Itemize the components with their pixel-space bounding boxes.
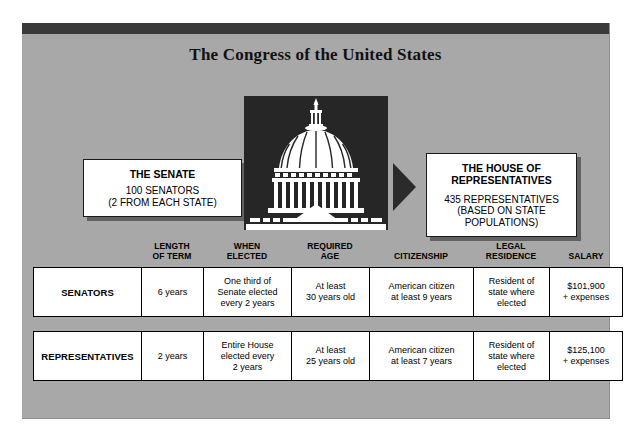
column-header-citizenship: CITIZENSHIP <box>369 241 473 267</box>
senate-details: 100 SENATORS (2 FROM EACH STATE) <box>108 185 217 208</box>
congress-comparison-table: LENGTH OF TERM WHEN ELECTED REQUIRED AGE… <box>33 241 623 381</box>
row-label-senators: SENATORS <box>33 267 141 317</box>
table-row: SENATORS 6 years One third of Senate ele… <box>33 267 623 317</box>
table-row-spacer <box>33 317 623 331</box>
page-title: The Congress of the United States <box>22 45 609 65</box>
column-header-legal-residence-line2: RESIDENCE <box>474 251 548 261</box>
house-detail-line-1: 435 REPRESENTATIVES <box>444 194 559 206</box>
arrow-right-icon <box>393 163 416 211</box>
house-heading-line-1: THE HOUSE OF <box>451 162 552 174</box>
column-header-salary-line1: SALARY <box>550 251 622 261</box>
cell-representatives-required-age: At least 25 years old <box>291 331 369 381</box>
cell-senators-required-age: At least 30 years old <box>291 267 369 317</box>
table-row: REPRESENTATIVES 2 years Entire House ele… <box>33 331 623 381</box>
house-details: 435 REPRESENTATIVES (BASED ON STATE POPU… <box>444 194 559 229</box>
column-header-length-of-term-line1: LENGTH <box>142 241 202 251</box>
cell-senators-legal-residence: Resident of state where elected <box>473 267 549 317</box>
cell-representatives-when-elected: Entire House elected every 2 years <box>203 331 291 381</box>
senate-heading: THE SENATE <box>130 168 196 180</box>
senate-detail-line-2: (2 FROM EACH STATE) <box>108 197 217 209</box>
column-header-salary: SALARY <box>549 241 623 267</box>
cell-representatives-salary: $125,100 + expenses <box>549 331 623 381</box>
house-detail-line-2: (BASED ON STATE <box>444 205 559 217</box>
column-header-when-elected-line2: ELECTED <box>204 251 290 261</box>
column-header-length-of-term: LENGTH OF TERM <box>141 241 203 267</box>
cell-representatives-length-of-term: 2 years <box>141 331 203 381</box>
house-detail-line-3: POPULATIONS) <box>444 217 559 229</box>
comparison-table-area: LENGTH OF TERM WHEN ELECTED REQUIRED AGE… <box>33 241 599 408</box>
cell-representatives-citizenship: American citizen at least 7 years <box>369 331 473 381</box>
column-header-required-age-line2: AGE <box>292 251 368 261</box>
congress-poster: The Congress of the United States <box>22 23 610 419</box>
senate-detail-line-1: 100 SENATORS <box>108 185 217 197</box>
poster-top-bar <box>22 23 609 34</box>
column-header-length-of-term-line2: OF TERM <box>142 251 202 261</box>
cell-senators-when-elected: One third of Senate elected every 2 year… <box>203 267 291 317</box>
column-header-citizenship-line1: CITIZENSHIP <box>370 251 472 261</box>
senate-info-box: THE SENATE 100 SENATORS (2 FROM EACH STA… <box>83 159 242 217</box>
cell-representatives-legal-residence: Resident of state where elected <box>473 331 549 381</box>
house-heading: THE HOUSE OF REPRESENTATIVES <box>451 162 552 186</box>
column-header-when-elected: WHEN ELECTED <box>203 241 291 267</box>
cell-senators-salary: $101,900 + expenses <box>549 267 623 317</box>
column-header-when-elected-line1: WHEN <box>204 241 290 251</box>
column-header-required-age: REQUIRED AGE <box>291 241 369 267</box>
column-header-legal-residence-line1: LEGAL <box>474 241 548 251</box>
column-header-blank <box>33 241 141 267</box>
cell-senators-citizenship: American citizen at least 9 years <box>369 267 473 317</box>
house-info-box: THE HOUSE OF REPRESENTATIVES 435 REPRESE… <box>426 153 577 237</box>
house-heading-line-2: REPRESENTATIVES <box>451 174 552 186</box>
column-header-required-age-line1: REQUIRED <box>292 241 368 251</box>
capitol-dome-illustration <box>244 96 388 230</box>
cell-senators-length-of-term: 6 years <box>141 267 203 317</box>
row-label-representatives: REPRESENTATIVES <box>33 331 141 381</box>
column-header-legal-residence: LEGAL RESIDENCE <box>473 241 549 267</box>
table-header-row: LENGTH OF TERM WHEN ELECTED REQUIRED AGE… <box>33 241 623 267</box>
